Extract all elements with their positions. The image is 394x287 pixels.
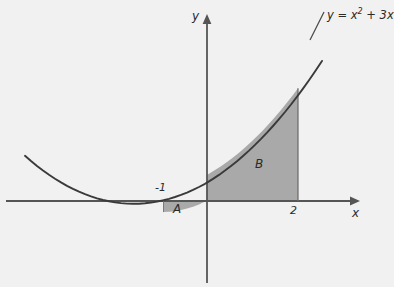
region-label-b: B bbox=[255, 158, 263, 170]
equation-leader-line bbox=[310, 12, 324, 40]
equation-annotation: y = x2 + 3x bbox=[327, 8, 394, 21]
x-axis-label: x bbox=[352, 207, 359, 219]
equation-tail: + 3x bbox=[363, 8, 394, 22]
x-axis-arrowhead bbox=[350, 197, 360, 206]
x-tick-label-negative-one: -1 bbox=[155, 182, 166, 193]
x-tick-label-two: 2 bbox=[290, 205, 297, 216]
y-axis-arrowhead bbox=[203, 14, 212, 24]
shaded-region-a bbox=[164, 201, 208, 212]
y-axis-label: y bbox=[192, 10, 199, 22]
region-label-a: A bbox=[173, 203, 181, 215]
shaded-region-b bbox=[207, 88, 298, 201]
equation-base: y = x bbox=[327, 8, 358, 22]
